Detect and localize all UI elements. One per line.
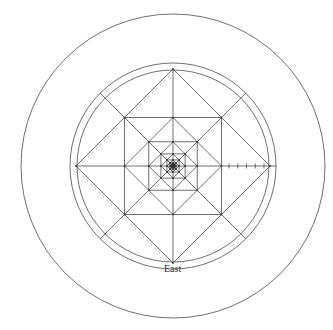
diagram-canvas [0,0,333,330]
east-label: East [164,263,181,274]
